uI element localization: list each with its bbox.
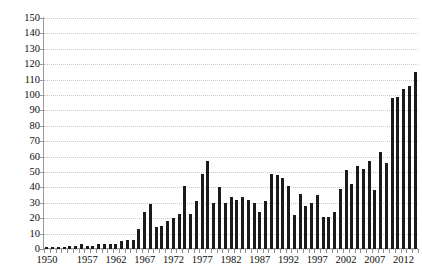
x-tick-37 bbox=[257, 249, 258, 253]
x-tick-22 bbox=[171, 249, 172, 253]
x-tick-40 bbox=[274, 249, 275, 253]
x-tick-3 bbox=[61, 249, 62, 253]
x-tick-56 bbox=[366, 249, 367, 253]
x-tick-2 bbox=[56, 249, 57, 253]
x-tick-51 bbox=[337, 249, 338, 253]
x-tick-21 bbox=[165, 249, 166, 253]
y-axis-label-20: 20 bbox=[10, 213, 40, 223]
x-axis-label-1992: 1992 bbox=[278, 254, 299, 266]
x-axis-label-1957: 1957 bbox=[77, 254, 98, 266]
x-tick-46 bbox=[309, 249, 310, 253]
bar-1978 bbox=[206, 161, 209, 249]
x-tick-23 bbox=[176, 249, 177, 253]
x-tick-41 bbox=[280, 249, 281, 253]
x-axis-label-2007: 2007 bbox=[364, 254, 385, 266]
x-tick-43 bbox=[291, 249, 292, 253]
bar-1991 bbox=[281, 178, 284, 249]
x-tick-58 bbox=[378, 249, 379, 253]
x-axis-label-1972: 1972 bbox=[163, 254, 184, 266]
x-axis-label-1982: 1982 bbox=[221, 254, 242, 266]
x-tick-50 bbox=[332, 249, 333, 253]
y-axis-label-60: 60 bbox=[10, 152, 40, 162]
x-tick-18 bbox=[148, 249, 149, 253]
bar-1976 bbox=[195, 201, 198, 249]
x-tick-15 bbox=[130, 249, 131, 253]
bar-2012 bbox=[402, 89, 405, 249]
x-tick-47 bbox=[314, 249, 315, 253]
y-axis-label-150: 150 bbox=[10, 13, 40, 23]
x-tick-20 bbox=[159, 249, 160, 253]
x-axis-label-1962: 1962 bbox=[105, 254, 126, 266]
x-axis-label-1987: 1987 bbox=[249, 254, 270, 266]
x-tick-0 bbox=[44, 249, 45, 253]
x-tick-35 bbox=[245, 249, 246, 253]
bar-1980 bbox=[218, 187, 221, 249]
x-tick-64 bbox=[412, 249, 413, 253]
bar-2007 bbox=[373, 190, 376, 249]
x-tick-57 bbox=[372, 249, 373, 253]
bar-1974 bbox=[183, 186, 186, 249]
bar-2014 bbox=[414, 72, 417, 249]
y-axis-label-110: 110 bbox=[10, 75, 40, 85]
bar-1984 bbox=[241, 197, 244, 249]
x-tick-54 bbox=[355, 249, 356, 253]
x-tick-27 bbox=[199, 249, 200, 253]
bar-1986 bbox=[253, 203, 256, 249]
x-tick-32 bbox=[228, 249, 229, 253]
x-tick-44 bbox=[297, 249, 298, 253]
bar-1975 bbox=[189, 214, 192, 249]
bar-chart: 0102030405060708090100110120130140150 19… bbox=[0, 0, 422, 280]
x-tick-33 bbox=[234, 249, 235, 253]
y-axis-label-140: 140 bbox=[10, 28, 40, 38]
bar-1964 bbox=[126, 240, 129, 249]
x-axis-label-2002: 2002 bbox=[336, 254, 357, 266]
bar-1977 bbox=[201, 174, 204, 249]
bar-1995 bbox=[304, 206, 307, 249]
bar-2005 bbox=[362, 169, 365, 249]
bar-2006 bbox=[368, 161, 371, 249]
x-tick-5 bbox=[73, 249, 74, 253]
y-axis-label-70: 70 bbox=[10, 136, 40, 146]
bar-1996 bbox=[310, 203, 313, 249]
x-tick-28 bbox=[205, 249, 206, 253]
x-axis-labels: 1950195719621967197219771982198719921997… bbox=[44, 254, 418, 270]
x-tick-11 bbox=[107, 249, 108, 253]
x-tick-26 bbox=[194, 249, 195, 253]
x-tick-7 bbox=[84, 249, 85, 253]
x-tick-24 bbox=[182, 249, 183, 253]
bar-1987 bbox=[258, 212, 261, 249]
bar-2009 bbox=[385, 163, 388, 249]
y-axis-label-10: 10 bbox=[10, 229, 40, 239]
bar-1993 bbox=[293, 215, 296, 249]
bar-2013 bbox=[408, 86, 411, 249]
bar-2004 bbox=[356, 166, 359, 249]
x-tick-17 bbox=[142, 249, 143, 253]
x-tick-9 bbox=[96, 249, 97, 253]
x-tick-38 bbox=[263, 249, 264, 253]
bar-2002 bbox=[345, 170, 348, 249]
bar-1968 bbox=[149, 204, 152, 249]
x-tick-25 bbox=[188, 249, 189, 253]
x-tick-61 bbox=[395, 249, 396, 253]
bar-1982 bbox=[230, 197, 233, 249]
x-tick-48 bbox=[320, 249, 321, 253]
bar-series bbox=[44, 18, 418, 249]
x-tick-60 bbox=[389, 249, 390, 253]
bar-1967 bbox=[143, 212, 146, 249]
bar-1988 bbox=[264, 201, 267, 249]
x-axis-label-1967: 1967 bbox=[134, 254, 155, 266]
x-axis-label-2012: 2012 bbox=[393, 254, 414, 266]
x-tick-12 bbox=[113, 249, 114, 253]
bar-1970 bbox=[160, 226, 163, 249]
y-axis-label-0: 0 bbox=[10, 244, 40, 254]
bar-1989 bbox=[270, 174, 273, 249]
x-tick-34 bbox=[240, 249, 241, 253]
bar-2003 bbox=[350, 184, 353, 249]
x-tick-31 bbox=[222, 249, 223, 253]
bar-1994 bbox=[299, 194, 302, 249]
x-tick-10 bbox=[102, 249, 103, 253]
x-tick-52 bbox=[343, 249, 344, 253]
bar-2010 bbox=[391, 98, 394, 249]
bar-1966 bbox=[137, 229, 140, 249]
x-tick-42 bbox=[286, 249, 287, 253]
